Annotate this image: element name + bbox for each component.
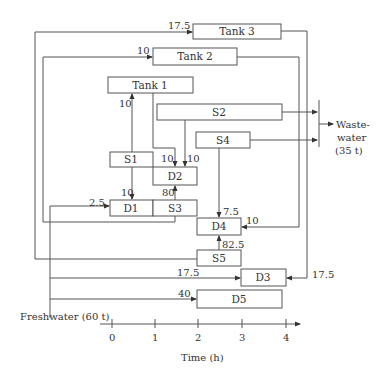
svg-text:(35 t): (35 t) [335,145,363,156]
label-tank1-to-d2: 10 [161,153,174,164]
d3-box: D3 [241,269,286,286]
svg-text:0: 0 [109,332,115,343]
s3-box: S3 [153,200,197,216]
label-tank3-to-d3: 17.5 [312,269,334,280]
svg-text:D1: D1 [123,202,138,214]
flow-tank3-to-d3 [281,31,307,278]
label-s4-to-d4: 7.5 [223,206,239,217]
tank-2-box: Tank 2 [153,48,237,65]
freshwater-label: Freshwater (60 t) [20,311,109,322]
d2-box: D2 [153,167,197,185]
label-to-tank2: 10 [137,45,150,56]
tank-1-box: Tank 1 [108,77,193,93]
label-s5-to-d4: 82.5 [222,239,244,250]
svg-text:Tank 3: Tank 3 [219,25,255,37]
tank-3-box: Tank 3 [193,24,281,39]
svg-text:D4: D4 [211,220,226,232]
label-fresh-to-d1: 2.5 [89,197,105,208]
s1-box: S1 [110,152,153,167]
d5-box: D5 [197,290,282,308]
svg-text:2: 2 [195,332,201,343]
svg-text:water: water [337,132,366,143]
s2-box: S2 [157,104,282,120]
flow-s5-to-tank3 [35,32,197,259]
svg-text:S1: S1 [124,153,138,165]
label-s2-to-d2: 10 [187,153,200,164]
label-s3-to-d2: 80 [162,187,175,198]
svg-text:1: 1 [152,332,158,343]
svg-text:S2: S2 [212,106,226,118]
d4-box: D4 [197,218,241,235]
wastewater-label: Waste- water (35 t) [335,119,370,156]
s4-box: S4 [196,132,250,148]
svg-text:S5: S5 [212,252,226,264]
label-to-tank3: 17.5 [168,20,190,31]
label-fresh-to-d5: 40 [178,288,191,299]
label-fresh-to-d3: 17.5 [177,267,199,278]
svg-text:D3: D3 [255,271,270,283]
svg-text:Waste-: Waste- [336,119,370,130]
water-network-diagram: Tank 3 Tank 2 Tank 1 S2 S4 S1 D2 D1 S3 D… [0,0,384,378]
svg-text:S4: S4 [216,134,230,146]
svg-text:3: 3 [239,332,245,343]
svg-text:4: 4 [283,332,289,343]
label-s1-to-d1: 10 [121,187,134,198]
label-s1-to-tank1: 10 [119,98,132,109]
svg-text:Tank 2: Tank 2 [177,50,213,62]
s5-box: S5 [197,250,241,266]
svg-text:S3: S3 [168,202,182,214]
axis-label: Time (h) [181,352,224,363]
svg-text:D5: D5 [231,293,246,305]
svg-text:Tank 1: Tank 1 [132,79,168,91]
label-tank2-to-d4: 10 [246,215,259,226]
svg-text:D2: D2 [167,170,182,182]
d1-box: D1 [110,200,153,216]
time-axis: 0 1 2 3 4 Time (h) [100,319,300,363]
